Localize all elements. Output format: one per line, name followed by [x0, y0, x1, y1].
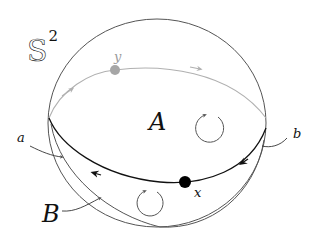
- rotation-arrow-a: [196, 115, 224, 142]
- pointer-a: [30, 146, 62, 157]
- title-superscript: 2: [49, 27, 59, 45]
- point-x: [179, 176, 191, 188]
- rotation-arrow-b: [137, 191, 163, 216]
- label-arc-a: a: [17, 131, 25, 144]
- label-point-y: y: [114, 50, 121, 63]
- label-region-a: A: [149, 110, 166, 134]
- b-region-boundary: [51, 124, 264, 227]
- label-point-x: x: [194, 186, 201, 199]
- pointer-region-b: [62, 198, 100, 211]
- title-symbol: S: [27, 33, 48, 68]
- back-equator-arrow-left: [62, 89, 72, 96]
- sphere-symbol: S2: [27, 36, 58, 66]
- point-y: [110, 65, 120, 75]
- label-region-b: B: [42, 202, 60, 226]
- front-equator-arrow-left: [94, 173, 101, 175]
- pointer-b: [262, 138, 287, 147]
- back-equator-arrow-right: [190, 67, 200, 69]
- label-arc-b: b: [293, 127, 301, 140]
